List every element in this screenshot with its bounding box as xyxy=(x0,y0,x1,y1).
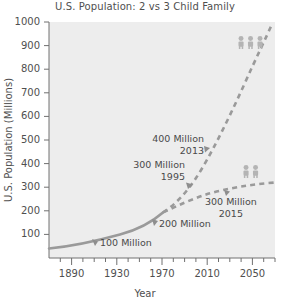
y-tick-label-100: 100 xyxy=(9,228,40,239)
annotation-300-million-2015-value: 300 Million xyxy=(205,196,257,208)
x-tick-label-2010: 2010 xyxy=(187,268,227,279)
y-tick-label-700: 700 xyxy=(9,87,40,98)
annotation-300-million-2015: 300 Million 2015 xyxy=(205,196,257,219)
annotation-100-million-label: 100 Million xyxy=(100,237,152,248)
y-tick-label-900: 900 xyxy=(9,40,40,51)
annotation-400-million-2013-year: 2013 xyxy=(124,145,204,157)
population-chart-figure: U.S. Population: 2 vs 3 Child Family xyxy=(0,0,290,305)
x-axis-ticks xyxy=(60,258,275,265)
y-tick-label-600: 600 xyxy=(9,110,40,121)
y-tick-label-200: 200 xyxy=(9,205,40,216)
annotation-300-million-2015-year: 2015 xyxy=(205,208,257,220)
y-tick-label-300: 300 xyxy=(9,181,40,192)
annotation-300-million-1995-value: 300 Million xyxy=(105,159,185,171)
y-tick-label-500: 500 xyxy=(9,134,40,145)
x-tick-label-1970: 1970 xyxy=(142,268,182,279)
annotation-200-million: 200 Million xyxy=(159,218,211,230)
y-tick-label-1000: 1000 xyxy=(9,16,40,27)
x-axis-title: Year xyxy=(0,288,290,299)
annotation-400-million-2013: 400 Million 2013 xyxy=(124,133,204,156)
annotation-200-million-label: 200 Million xyxy=(159,218,211,229)
annotation-400-million-2013-value: 400 Million xyxy=(124,133,204,145)
annotation-100-million: 100 Million xyxy=(100,237,152,249)
x-tick-label-1930: 1930 xyxy=(97,268,137,279)
y-tick-label-800: 800 xyxy=(9,63,40,74)
x-tick-label-2050: 2050 xyxy=(232,268,272,279)
annotation-300-million-1995: 300 Million 1995 xyxy=(105,159,185,182)
y-tick-label-400: 400 xyxy=(9,158,40,169)
annotation-300-million-1995-year: 1995 xyxy=(105,171,185,183)
y-axis-ticks xyxy=(44,22,49,234)
x-tick-label-1890: 1890 xyxy=(52,268,92,279)
